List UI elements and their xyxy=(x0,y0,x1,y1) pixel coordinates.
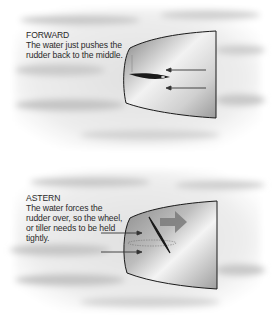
forward-diagram xyxy=(0,0,278,160)
astern-title: ASTERN xyxy=(26,193,126,203)
forward-caption: FORWARD The water just pushes the rudder… xyxy=(26,30,126,60)
astern-description: The water forces the rudder over, so the… xyxy=(26,203,126,243)
forward-panel: FORWARD The water just pushes the rudder… xyxy=(0,0,278,160)
forward-title: FORWARD xyxy=(26,30,126,40)
astern-caption: ASTERN The water forces the rudder over,… xyxy=(26,193,126,243)
forward-description: The water just pushes the rudder back to… xyxy=(26,40,126,60)
astern-panel: ASTERN The water forces the rudder over,… xyxy=(0,160,278,320)
